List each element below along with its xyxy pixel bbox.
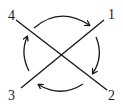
- label-1: 1: [108, 8, 115, 22]
- diagram-graphics: [0, 0, 123, 105]
- arrow-left-icon: [24, 37, 29, 71]
- arrow-bottom-icon: [39, 84, 83, 91]
- crossed-lines-diagram: 4 1 3 2: [0, 0, 123, 105]
- arrow-right-icon: [93, 37, 99, 73]
- label-3: 3: [8, 89, 15, 103]
- label-2: 2: [108, 89, 115, 103]
- arrow-top-icon: [34, 16, 89, 28]
- label-4: 4: [8, 9, 15, 23]
